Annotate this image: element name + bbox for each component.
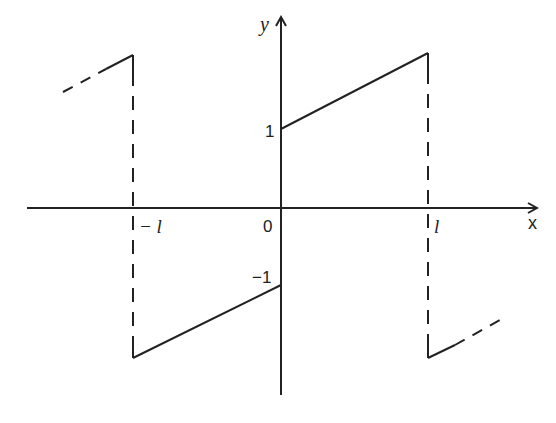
continuation-left-dashed	[63, 69, 106, 92]
function-graph: y x 0 − l l 1 −1	[0, 0, 556, 423]
continuation-right-dashed	[455, 320, 500, 345]
tick-label-l: l	[434, 216, 439, 237]
continuation-right-solid	[428, 345, 455, 358]
segment-right-upper	[281, 53, 428, 129]
y-axis-label: y	[258, 13, 269, 36]
origin-label: 0	[263, 217, 272, 236]
segment-left-lower	[133, 285, 281, 358]
tick-label-neg-l: − l	[139, 216, 162, 237]
tick-label-y-1: 1	[265, 122, 274, 141]
continuation-left-solid	[106, 55, 133, 69]
tick-label-y-neg-1: −1	[252, 268, 271, 287]
x-axis-label: x	[528, 213, 537, 233]
